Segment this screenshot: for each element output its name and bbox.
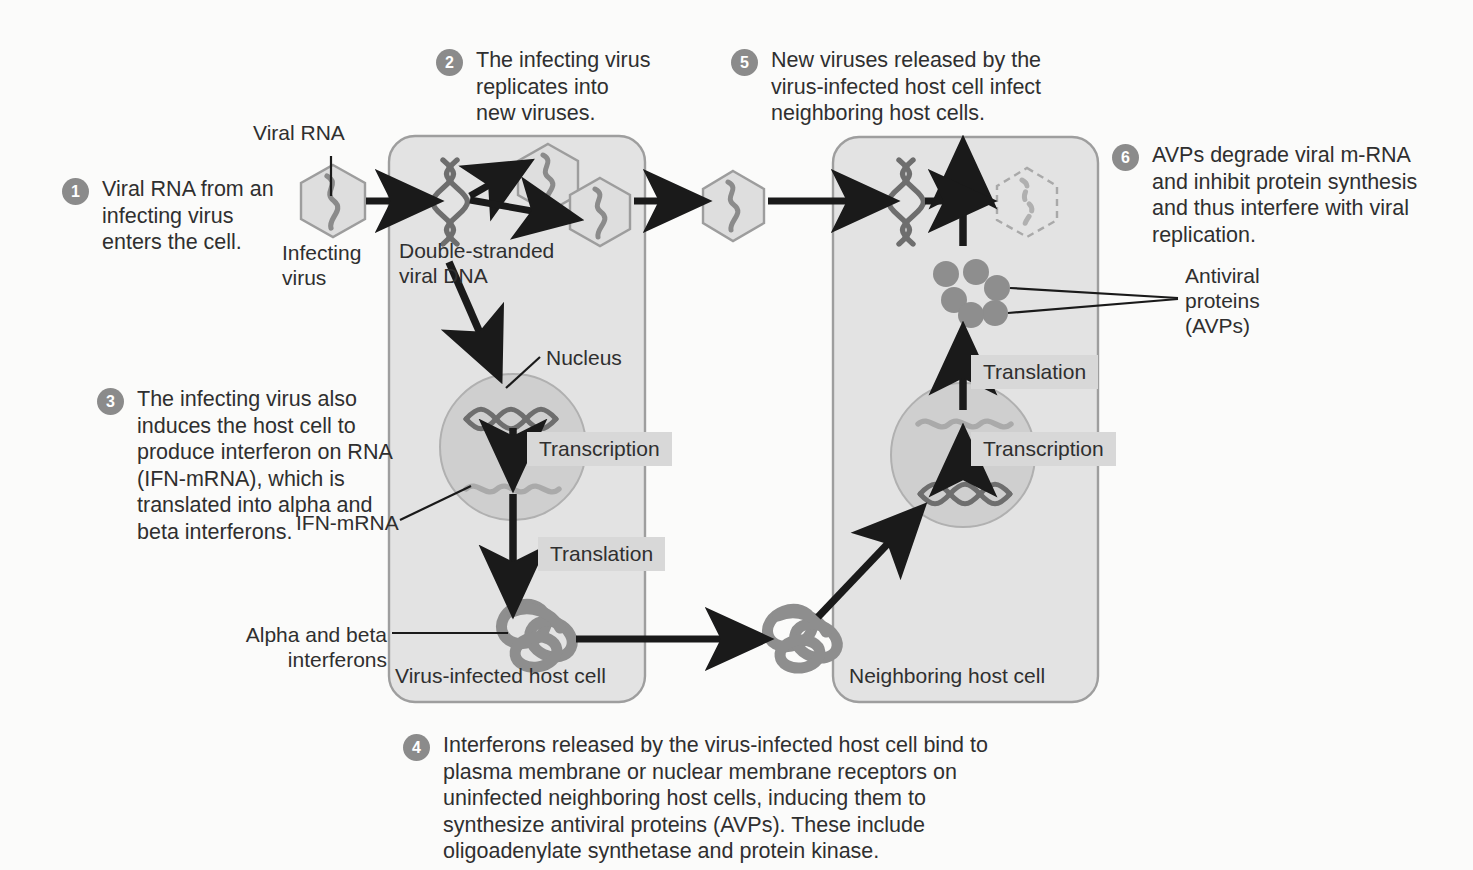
step-6-text: AVPs degrade viral m-RNA and inhibit pro… <box>1152 142 1442 248</box>
label-alpha-and-beta-interferons: Alpha and beta interferons <box>237 622 387 672</box>
step-3-badge: 3 <box>97 388 124 415</box>
label-double-stranded-viral-dna: Double-stranded viral DNA <box>399 238 554 288</box>
label-neighboring-host-cell: Neighboring host cell <box>849 663 1045 688</box>
step-4-text: Interferons released by the virus-infect… <box>443 732 1063 865</box>
step-6-badge: 6 <box>1112 144 1139 171</box>
step-5-badge: 5 <box>731 49 758 76</box>
label-translation-left: Translation <box>538 537 665 571</box>
step-2-text: The infecting virus replicates into new … <box>476 47 696 127</box>
step-4-badge: 4 <box>403 734 430 761</box>
mrna-right <box>918 421 1011 427</box>
label-ifn-mrna: IFN-mRNA <box>296 510 399 535</box>
step-2-badge: 2 <box>436 49 463 76</box>
label-nucleus: Nucleus <box>546 345 622 370</box>
step-1-badge: 1 <box>62 178 89 205</box>
label-virus-infected-host-cell: Virus-infected host cell <box>395 663 606 688</box>
label-antiviral-proteins: Antiviral proteins (AVPs) <box>1185 263 1260 338</box>
label-viral-rna: Viral RNA <box>253 120 345 145</box>
label-translation-right: Translation <box>971 355 1098 389</box>
label-transcription-left: Transcription <box>527 432 672 466</box>
virus-particle-released <box>703 171 764 241</box>
step-1-text: Viral RNA from an infecting virus enters… <box>102 176 312 256</box>
step-5-text: New viruses released by the virus-infect… <box>771 47 1061 127</box>
diagram-canvas: 1 Viral RNA from an infecting virus ente… <box>0 0 1473 870</box>
interferon-molecule-right <box>762 603 842 670</box>
ifn-mrna-left <box>466 486 559 492</box>
label-transcription-right: Transcription <box>971 432 1116 466</box>
label-infecting-virus: Infecting virus <box>282 240 361 290</box>
